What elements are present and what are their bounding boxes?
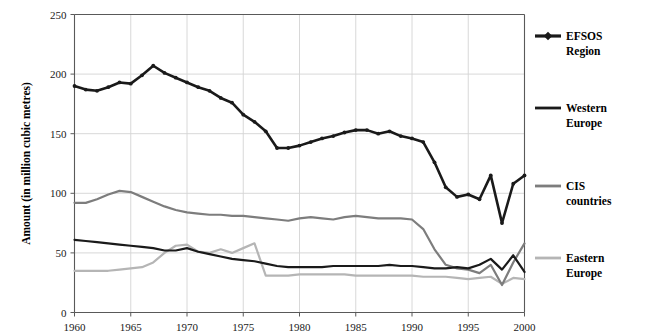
series-marker xyxy=(444,185,448,189)
series-marker xyxy=(466,193,470,197)
series-marker xyxy=(196,85,200,89)
x-tick-label: 2000 xyxy=(514,321,537,333)
y-tick-label: 50 xyxy=(56,247,68,259)
series-marker xyxy=(410,137,414,141)
x-tick-label: 1985 xyxy=(345,321,368,333)
series-marker xyxy=(433,160,437,164)
series-marker xyxy=(399,134,403,138)
line-chart: 0501001502002501960196519701975198019851… xyxy=(0,0,655,335)
series-marker xyxy=(84,88,88,92)
legend: EFSOSRegionWesternEuropeCIScountriesEast… xyxy=(535,30,612,280)
series-marker xyxy=(185,81,189,85)
x-tick-label: 1970 xyxy=(176,321,199,333)
legend-label-line1: EFSOS xyxy=(566,30,602,42)
legend-label-line2: countries xyxy=(566,195,612,207)
series-marker xyxy=(320,137,324,141)
chart-canvas: 0501001502002501960196519701975198019851… xyxy=(0,0,655,335)
series-marker xyxy=(73,84,77,88)
x-axis: 196019651970197519801985199019952000 xyxy=(64,313,537,333)
series-marker xyxy=(163,71,167,75)
legend-label-line2: Europe xyxy=(566,117,602,130)
y-axis-title: Amount (in million cubic metres) xyxy=(20,82,33,245)
series-marker xyxy=(365,128,369,132)
x-tick-label: 1975 xyxy=(232,321,255,333)
legend-label-line2: Region xyxy=(566,45,601,58)
series-marker xyxy=(253,120,257,124)
x-tick-label: 1980 xyxy=(289,321,312,333)
series-marker xyxy=(376,132,380,136)
y-tick-label: 200 xyxy=(50,68,67,80)
series-marker xyxy=(388,129,392,133)
x-tick-label: 1995 xyxy=(457,321,480,333)
series-marker xyxy=(298,144,302,148)
series-marker xyxy=(219,96,223,100)
y-tick-label: 150 xyxy=(50,128,67,140)
series-marker xyxy=(129,82,133,86)
series-marker xyxy=(151,64,155,68)
legend-label-line2: Europe xyxy=(566,267,602,280)
series-marker xyxy=(500,221,504,225)
legend-marker xyxy=(544,32,552,40)
x-tick-label: 1965 xyxy=(120,321,143,333)
series-marker xyxy=(208,89,212,93)
series-marker xyxy=(489,174,493,178)
series-marker xyxy=(264,129,268,133)
y-tick-label: 100 xyxy=(50,187,67,199)
series-marker xyxy=(140,73,144,77)
series-marker xyxy=(421,140,425,144)
series-marker xyxy=(309,140,313,144)
series-marker xyxy=(511,182,515,186)
series-marker xyxy=(106,85,110,89)
legend-label-line1: Eastern xyxy=(566,252,605,264)
series-marker xyxy=(354,128,358,132)
legend-label-line1: Western xyxy=(566,102,607,114)
x-tick-label: 1990 xyxy=(401,321,424,333)
legend-label-line1: CIS xyxy=(566,180,585,192)
series-marker xyxy=(331,134,335,138)
series-marker xyxy=(95,89,99,93)
series-marker xyxy=(455,195,459,199)
series-marker xyxy=(241,113,245,117)
series-marker xyxy=(275,146,279,150)
y-tick-label: 0 xyxy=(61,307,67,319)
series-marker xyxy=(286,146,290,150)
series-marker xyxy=(230,101,234,105)
y-tick-label: 250 xyxy=(50,9,67,21)
x-tick-label: 1960 xyxy=(64,321,87,333)
series-marker xyxy=(174,76,178,80)
series-marker xyxy=(478,197,482,201)
series-marker xyxy=(523,174,527,178)
y-axis: 050100150200250 xyxy=(50,9,75,319)
series-marker xyxy=(118,81,122,85)
series-marker xyxy=(343,131,347,135)
